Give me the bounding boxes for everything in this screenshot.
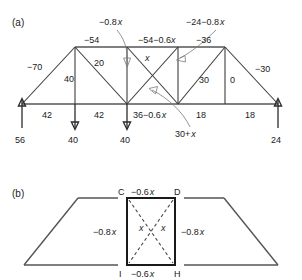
- load-arrow-node-2: [71, 104, 78, 130]
- isolated-panel-box: [127, 198, 175, 265]
- reaction-arrow-right: [274, 99, 281, 129]
- reaction-value-right: 24: [271, 135, 281, 145]
- reaction-arrow-left: [18, 99, 25, 129]
- panel-b-group: (b) C D I H −0.6: [12, 187, 278, 279]
- label-diagonal-bay-4: 30: [199, 75, 209, 85]
- label-callout-right: −24−0.8x: [186, 17, 225, 27]
- diagonal-bay-2: [75, 47, 127, 104]
- label-callout-left: −0.8x: [99, 17, 123, 27]
- label-panel-b-diag-left: x: [138, 223, 144, 233]
- load-value-node-3: 40: [120, 135, 130, 145]
- figure-root: (a): [0, 0, 302, 280]
- label-bottom-chord-3: 36−0.6x: [133, 110, 167, 120]
- label-vertical-1: 40: [64, 74, 74, 84]
- label-panel-b-bottom: −0.6x: [131, 269, 155, 279]
- label-top-chord-3: −36: [196, 35, 211, 45]
- label-callout-bottom: 30+x: [175, 129, 196, 139]
- label-diagonal-right-end: −30: [255, 64, 270, 74]
- label-diagonal-bay-2: 20: [94, 58, 104, 68]
- truss-figure-svg: (a): [0, 0, 302, 280]
- node-label-C: C: [118, 187, 125, 197]
- label-vertical-right: 0: [230, 75, 235, 85]
- panel-a-label: (a): [12, 17, 24, 28]
- load-value-node-2: 40: [68, 135, 78, 145]
- node-label-H: H: [174, 269, 181, 279]
- reaction-value-left: 56: [15, 135, 25, 145]
- panel-a-group: (a): [12, 17, 282, 145]
- label-diagonal-left-end: −70: [27, 62, 42, 72]
- node-label-I: I: [119, 269, 122, 279]
- load-arrow-node-3: [123, 104, 130, 130]
- label-panel-b-top: −0.6x: [131, 187, 155, 197]
- label-bottom-chord-5: 18: [245, 110, 255, 120]
- label-top-chord-2: −54−0.6x: [138, 35, 176, 45]
- leader-callout-bottom: [149, 87, 190, 128]
- label-panel-b-right: −0.8x: [181, 227, 205, 237]
- label-panel-b-left: −0.8x: [93, 227, 117, 237]
- label-bottom-chord-2: 42: [94, 110, 104, 120]
- label-bottom-chord-1: 42: [42, 110, 52, 120]
- label-bottom-chord-4: 18: [196, 110, 206, 120]
- label-panel-b-diag-right: x: [160, 223, 166, 233]
- label-top-chord-1: −54: [84, 35, 99, 45]
- panel-b-label: (b): [12, 188, 24, 199]
- node-label-D: D: [174, 187, 181, 197]
- label-diagonal-center: x: [144, 53, 150, 63]
